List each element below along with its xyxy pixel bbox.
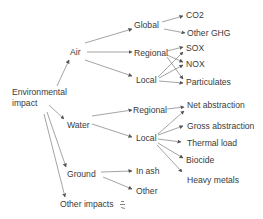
arrow-ground-other xyxy=(103,177,132,189)
root-label-line1: Environmental xyxy=(12,87,67,98)
arrow-root-ground xyxy=(47,112,66,167)
leaf-in-ash: In ash xyxy=(136,166,159,176)
arrow-air-local xyxy=(85,60,132,76)
node-water: Water xyxy=(67,120,90,130)
node-air-local: Local xyxy=(136,75,157,85)
leaf-other-ghg: Other GHG xyxy=(187,28,230,38)
node-air-global: Global xyxy=(134,20,159,30)
ellipsis-arrows-icon xyxy=(119,200,127,210)
leaf-heavy-metals: Heavy metals xyxy=(187,175,239,185)
arrow-global-co2 xyxy=(162,16,183,22)
root-label-line2: impact xyxy=(12,98,67,109)
root-node: Environmental impact xyxy=(12,87,67,108)
arrow-wlocal-thermal xyxy=(158,139,181,142)
node-other-impacts: Other impacts xyxy=(60,199,127,210)
node-air: Air xyxy=(70,47,81,57)
arrow-local-nox xyxy=(159,65,183,78)
node-water-regional: Regional xyxy=(133,105,167,115)
node-ground: Ground xyxy=(67,169,96,179)
leaf-biocide: Biocide xyxy=(186,155,214,165)
other-impacts-label: Other impacts xyxy=(60,199,114,209)
leaf-co2: CO2 xyxy=(186,10,204,20)
leaf-thermal-load: Thermal load xyxy=(187,138,237,148)
leaf-net-abstraction: Net abstraction xyxy=(187,100,245,110)
arrow-water-local xyxy=(92,124,132,137)
leaf-ground-other: Other xyxy=(136,186,158,196)
arrow-local-particulates xyxy=(159,81,183,83)
environmental-impact-diagram: Environmental impact Air Global Regional… xyxy=(0,0,263,219)
arrow-global-ghg xyxy=(164,29,185,33)
arrow-regional-nox xyxy=(167,55,183,62)
arrow-wregional-net xyxy=(167,107,184,109)
node-air-regional: Regional xyxy=(134,48,168,58)
node-water-local: Local xyxy=(136,133,157,143)
leaf-nox: NOX xyxy=(186,59,205,69)
arrow-root-air xyxy=(57,60,69,86)
leaf-sox: SOX xyxy=(186,43,204,53)
leaf-particulates: Particulates xyxy=(186,77,231,87)
leaf-gross-abstraction: Gross abstraction xyxy=(187,121,254,131)
arrow-air-global xyxy=(85,29,132,43)
arrow-ground-inash xyxy=(101,171,132,172)
arrow-wlocal-heavy xyxy=(157,145,182,172)
arrow-regional-sox xyxy=(167,47,183,51)
arrow-water-regional xyxy=(92,110,132,116)
